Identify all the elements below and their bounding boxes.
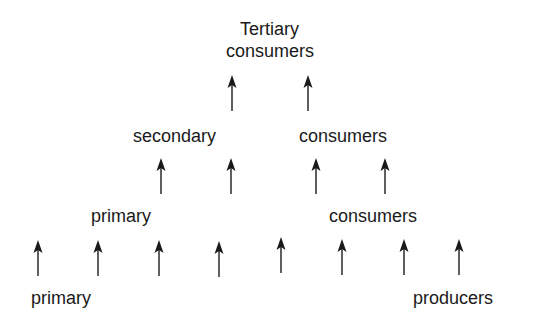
up-arrow-icon xyxy=(227,158,236,194)
up-arrow-icon xyxy=(277,237,286,273)
up-arrow-icon xyxy=(312,158,321,194)
up-arrow-icon xyxy=(381,158,390,194)
up-arrow-icon xyxy=(155,240,164,276)
up-arrow-icon xyxy=(94,240,103,276)
up-arrow-icon xyxy=(228,75,237,111)
arrow-row-primary-to-secondary xyxy=(157,158,390,194)
up-arrow-icon xyxy=(400,239,409,275)
up-arrow-icon xyxy=(338,239,347,275)
up-arrow-icon xyxy=(455,239,464,275)
arrows-layer xyxy=(0,0,544,330)
up-arrow-icon xyxy=(34,240,43,276)
up-arrow-icon xyxy=(215,241,224,277)
arrow-row-secondary-to-tertiary xyxy=(228,75,313,111)
up-arrow-icon xyxy=(304,75,313,111)
arrow-row-producers-to-primary xyxy=(34,237,464,277)
up-arrow-icon xyxy=(157,158,166,194)
